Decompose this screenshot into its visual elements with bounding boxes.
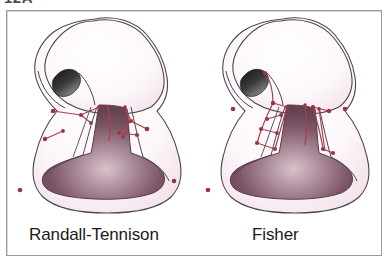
figure-root: 12A bbox=[0, 0, 388, 263]
figure-caption-fragment: 12A bbox=[4, 0, 33, 4]
panel-label-fisher: Fisher bbox=[252, 225, 299, 245]
figure-frame: Randall-Tennison Fisher bbox=[6, 10, 382, 256]
panel-fisher bbox=[206, 18, 369, 213]
panel-randall-tennison bbox=[18, 18, 181, 213]
cleft-lip-repair-illustration bbox=[7, 11, 383, 257]
panel-label-randall-tennison: Randall-Tennison bbox=[29, 225, 159, 245]
